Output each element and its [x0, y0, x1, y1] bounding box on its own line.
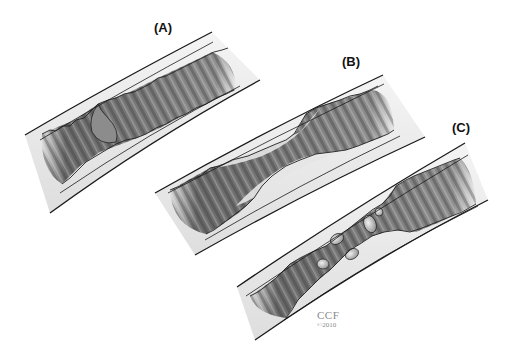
credit-name: CCF: [317, 310, 339, 321]
panel-label-a: (A): [154, 20, 172, 35]
artery-illustration: (A) (B) (C) CCF ©2010: [0, 0, 513, 357]
panel-label-b: (B): [342, 54, 360, 69]
copyright-credit: CCF ©2010: [317, 310, 339, 329]
credit-year: ©2010: [317, 322, 339, 329]
panel-label-c: (C): [452, 120, 470, 135]
